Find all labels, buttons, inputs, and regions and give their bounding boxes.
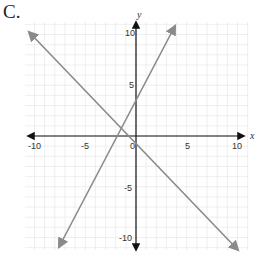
x-tick-5: 5 [185, 141, 190, 151]
y-tick-5: 5 [129, 80, 134, 90]
x-tick-neg10: -10 [28, 141, 41, 151]
x-tick-10: 10 [232, 141, 242, 151]
x-axis-label: x [249, 130, 255, 141]
y-tick-neg5: -5 [124, 183, 132, 193]
y-tick-10: 10 [125, 28, 135, 38]
coordinate-plane: x y -10 -5 0 5 10 10 5 -5 -10 [0, 0, 261, 266]
y-tick-neg10: -10 [119, 233, 132, 243]
x-tick-neg5: -5 [81, 141, 89, 151]
y-axis-label: y [136, 9, 142, 20]
